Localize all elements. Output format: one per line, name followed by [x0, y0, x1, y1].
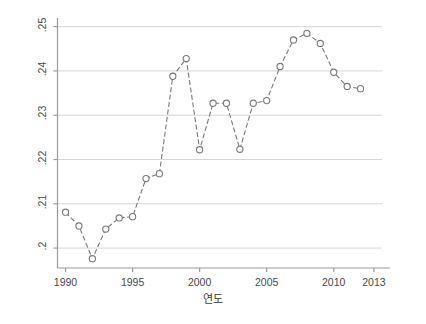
data-point: [129, 214, 135, 220]
data-point: [317, 40, 323, 46]
data-point: [103, 226, 109, 232]
data-point: [76, 223, 82, 229]
series-line-0: [66, 33, 361, 258]
series-line-group: [66, 33, 361, 258]
x-tick-label: 2000: [180, 276, 220, 288]
data-point: [183, 55, 189, 61]
data-point: [344, 83, 350, 89]
data-point: [277, 63, 283, 69]
data-point: [223, 100, 229, 106]
x-tick-label: 1990: [46, 276, 86, 288]
y-tick-label: .21: [36, 187, 48, 217]
x-tick-label: 2010: [314, 276, 354, 288]
x-tick-label: 2013: [354, 276, 394, 288]
y-tick-label: .23: [36, 98, 48, 128]
data-point: [290, 37, 296, 43]
series-marker-group: [62, 30, 363, 262]
data-point: [237, 146, 243, 152]
data-point: [304, 30, 310, 36]
data-point: [62, 209, 68, 215]
x-tick-label: 1995: [113, 276, 153, 288]
y-tick-label: .22: [36, 143, 48, 173]
data-point: [143, 175, 149, 181]
data-point: [89, 256, 95, 262]
data-point: [264, 98, 270, 104]
data-point: [357, 86, 363, 92]
y-tick-label: .25: [36, 10, 48, 40]
y-tick-label: .2: [36, 231, 48, 261]
data-point: [197, 147, 203, 153]
y-tick-label: .24: [36, 54, 48, 84]
data-point: [116, 215, 122, 221]
gridlines-group: [58, 27, 383, 248]
data-point: [250, 100, 256, 106]
data-point: [331, 69, 337, 75]
data-point: [210, 100, 216, 106]
data-point: [156, 171, 162, 177]
wolfson-index-chart: Wolfson 지수 연도 .2.21.22.23.24.25 19901995…: [0, 0, 426, 324]
x-tick-label: 2005: [247, 276, 287, 288]
data-point: [170, 73, 176, 79]
